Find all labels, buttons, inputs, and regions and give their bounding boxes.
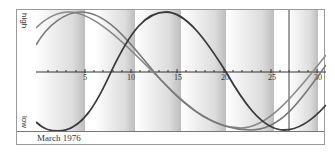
plot-area: 5 10 15 20 25 30 bbox=[36, 10, 326, 131]
chart-footer: March 1976 bbox=[17, 131, 324, 146]
tick-label: 10 bbox=[127, 73, 135, 82]
y-label-column: high low bbox=[17, 10, 37, 131]
tick-label: 25 bbox=[268, 73, 276, 82]
y-label-low: low bbox=[20, 116, 29, 128]
biorhythm-chart: high low 5 bbox=[16, 9, 325, 145]
month-label: March 1976 bbox=[37, 133, 81, 143]
tick-label: 5 bbox=[83, 73, 87, 82]
y-label-high: high bbox=[20, 13, 29, 28]
tick-label: 15 bbox=[174, 73, 182, 82]
